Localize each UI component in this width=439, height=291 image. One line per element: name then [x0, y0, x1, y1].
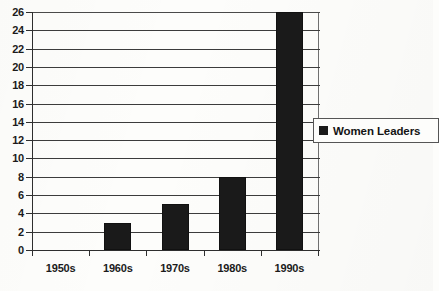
- y-axis-label: 4: [0, 208, 24, 218]
- y-axis-label: 8: [0, 172, 24, 182]
- y-axis-label: 14: [0, 117, 24, 127]
- legend-swatch-women-leaders: [319, 126, 328, 135]
- y-axis-tick: [26, 85, 33, 86]
- x-axis-tick: [32, 250, 33, 256]
- y-axis-label: 12: [0, 135, 24, 145]
- y-axis-label: 20: [0, 62, 24, 72]
- bar-1960s: [104, 223, 131, 250]
- y-axis-tick: [26, 104, 33, 105]
- bar-1980s: [219, 177, 246, 250]
- legend-label-women-leaders: Women Leaders: [333, 125, 420, 137]
- y-axis-label: 26: [0, 7, 24, 17]
- x-axis-label-1990s: 1990s: [254, 262, 324, 274]
- x-axis-tick: [89, 250, 90, 256]
- y-axis-tick: [26, 49, 33, 50]
- y-axis-tick: [26, 122, 33, 123]
- y-axis-tick: [26, 12, 33, 13]
- y-axis-tick: [26, 177, 33, 178]
- y-axis-label: 6: [0, 190, 24, 200]
- y-axis-label: 18: [0, 80, 24, 90]
- y-axis-tick: [26, 67, 33, 68]
- bar-1990s: [276, 12, 303, 250]
- chart-legend[interactable]: Women Leaders: [313, 118, 439, 143]
- y-axis-tick: [26, 213, 33, 214]
- y-axis-label: 0: [0, 245, 24, 255]
- y-axis-label: 24: [0, 25, 24, 35]
- y-axis-label: 22: [0, 44, 24, 54]
- y-axis-label: 16: [0, 99, 24, 109]
- bar-1970s: [162, 204, 189, 250]
- y-axis-label: 2: [0, 227, 24, 237]
- gridline: [32, 250, 320, 251]
- x-axis-tick: [261, 250, 262, 256]
- y-axis-tick: [26, 140, 33, 141]
- x-axis-tick: [204, 250, 205, 256]
- y-axis-tick: [26, 195, 33, 196]
- x-axis-tick: [146, 250, 147, 256]
- y-axis-label: 10: [0, 153, 24, 163]
- y-axis-tick: [26, 232, 33, 233]
- y-axis-tick: [26, 30, 33, 31]
- x-axis-tick: [318, 250, 319, 256]
- y-axis-tick: [26, 158, 33, 159]
